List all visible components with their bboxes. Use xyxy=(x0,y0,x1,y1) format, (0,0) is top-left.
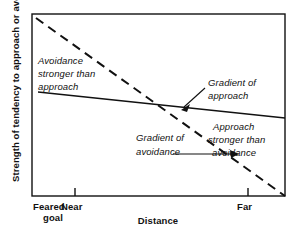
annotation-approach-stronger-line2: stronger than xyxy=(208,134,265,145)
annotation-approach-stronger-line3: avoidance xyxy=(212,147,256,158)
annotation-avoidance-stronger-line3: approach xyxy=(38,81,78,92)
y-axis-title: Strength of tendency to approach or avoi… xyxy=(10,0,21,182)
x-tick-label-far: Far xyxy=(237,201,252,212)
x-tick-label-feared-goal-line2: goal xyxy=(43,212,63,223)
annotation-gradient-approach-line1: Gradient of xyxy=(208,77,257,88)
annotation-gradient-avoidance-line1: Gradient of xyxy=(136,132,185,143)
annotation-gradient-approach-line2: approach xyxy=(208,90,248,101)
annotation-avoidance-stronger-line1: Avoidance xyxy=(37,55,83,66)
annotation-approach-stronger-line1: Approach xyxy=(212,121,254,132)
approach-avoidance-conflict-chart: Strength of tendency to approach or avoi… xyxy=(0,0,296,234)
x-tick-label-near: Near xyxy=(61,201,83,212)
x-axis-title: Distance xyxy=(138,215,178,226)
annotation-gradient-avoidance-line2: avoidance xyxy=(136,146,180,157)
figure-container: Strength of tendency to approach or avoi… xyxy=(0,0,296,234)
annotation-avoidance-stronger-line2: stronger than xyxy=(38,68,95,79)
